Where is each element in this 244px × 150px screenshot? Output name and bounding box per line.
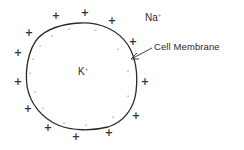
negative-charge-symbol: - — [127, 68, 130, 75]
positive-charge-symbol: + — [14, 48, 22, 58]
positive-charge-symbol: + — [14, 77, 22, 87]
membrane-pointer-arrow — [131, 48, 152, 59]
sodium-ion-label: Na+ — [145, 12, 161, 23]
negative-charge-symbol: - — [34, 89, 37, 96]
positive-charge-symbol: + — [105, 128, 113, 138]
negative-charge-symbol: - — [85, 122, 88, 129]
negative-charge-symbol: - — [29, 70, 32, 77]
negative-charge-symbol: - — [117, 46, 120, 53]
positive-charge-symbol: + — [44, 123, 52, 133]
positive-charge-symbol: + — [108, 16, 116, 26]
positive-charge-symbol: + — [25, 28, 33, 38]
potassium-ion-symbol: K — [78, 66, 85, 77]
negative-charge-symbol: - — [42, 105, 45, 112]
negative-charge-symbol: - — [94, 27, 97, 34]
positive-charge-symbol: + — [141, 77, 149, 87]
negative-charge-symbol: - — [32, 56, 35, 63]
negative-charge-symbol: - — [51, 33, 54, 40]
potassium-ion-charge: + — [85, 66, 89, 72]
potassium-ion-label: K+ — [78, 66, 88, 77]
negative-charge-symbol: - — [112, 114, 115, 121]
negative-charge-symbol: - — [68, 26, 71, 33]
negative-charge-symbol: - — [127, 93, 130, 100]
positive-charge-symbol: + — [24, 104, 32, 114]
negative-charge-symbol: - — [39, 43, 42, 50]
sodium-ion-charge: + — [158, 12, 162, 18]
sodium-ion-symbol: Na — [145, 12, 158, 23]
positive-charge-symbol: + — [81, 8, 89, 18]
positive-charge-symbol: + — [72, 132, 80, 142]
positive-charge-symbol: + — [132, 111, 140, 121]
cell-membrane-label: Cell Membrane — [154, 42, 220, 52]
cell-diagram — [0, 0, 244, 150]
negative-charge-symbol: - — [63, 120, 66, 127]
positive-charge-symbol: + — [52, 11, 60, 21]
positive-charge-symbol: + — [129, 37, 137, 47]
